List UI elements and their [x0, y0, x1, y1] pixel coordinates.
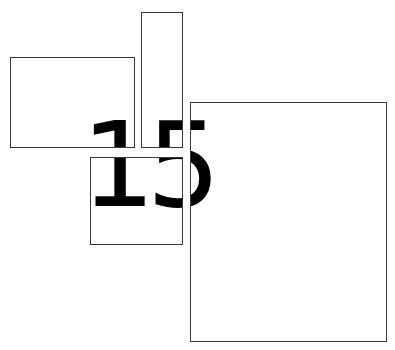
number-text: 15: [81, 107, 135, 148]
number-text: 15: [190, 107, 212, 224]
window-box-2: 15: [141, 12, 183, 148]
window-box-3: 15: [90, 157, 183, 245]
window-box-1: 15: [10, 57, 135, 148]
figure-canvas: 15 15 15 15: [0, 0, 395, 350]
window-box-4: 15: [190, 102, 387, 342]
number-text: 15: [141, 107, 183, 148]
number-text: 15: [90, 157, 183, 224]
